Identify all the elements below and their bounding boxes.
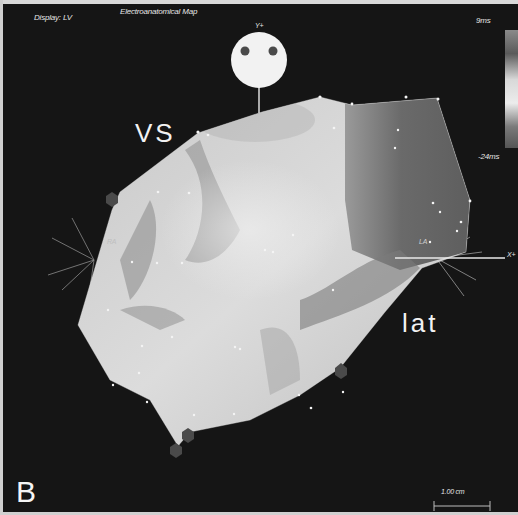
lv-surface-mesh[interactable] xyxy=(70,90,480,450)
colorbar-min-label: -24ms xyxy=(478,152,499,161)
head-orientation-icon[interactable] xyxy=(231,32,287,113)
map-title: Electroanatomical Map xyxy=(120,7,197,16)
scale-bar-label: 1.00 cm xyxy=(441,488,465,495)
scale-bar xyxy=(434,501,490,511)
electroanatomical-map-view: Display: LV Electroanatomical Map 9ms -2… xyxy=(0,0,518,515)
y-axis-label: Y+ xyxy=(255,22,263,29)
colorbar-max-label: 9ms xyxy=(476,16,491,25)
ablation-marker xyxy=(170,443,182,458)
lateral-label: lat xyxy=(402,308,438,339)
colorbar xyxy=(505,30,518,148)
x-axis-label: X+ xyxy=(507,251,515,258)
septal-label: VS xyxy=(135,118,176,149)
ra-orientation-lines xyxy=(48,218,94,290)
la-marker-label: LA xyxy=(419,238,427,245)
map-canvas[interactable] xyxy=(0,0,518,515)
ra-marker-label: RA xyxy=(107,238,116,245)
panel-letter: B xyxy=(16,475,36,509)
display-label: Display: LV xyxy=(34,13,72,22)
